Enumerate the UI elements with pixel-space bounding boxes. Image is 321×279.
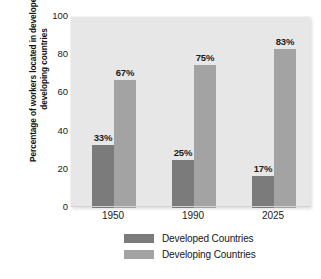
legend-item-developed: Developed Countries	[124, 231, 256, 245]
bar-developed-2025	[252, 176, 274, 208]
y-tick-label: 0	[40, 201, 68, 212]
y-tick-label: 20	[40, 163, 68, 174]
y-tick-label: 60	[40, 86, 68, 97]
bar-value-label: 67%	[110, 67, 140, 78]
bar-chart-figure: Percentage of workers located in develop…	[0, 0, 321, 279]
bar-developing-1950	[114, 80, 136, 208]
bar-value-label: 75%	[190, 52, 220, 63]
bar-developing-1990	[194, 65, 216, 208]
chart-legend: Developed Countries Developing Countries	[124, 231, 256, 261]
y-axis-tick-labels: 020406080100	[38, 0, 68, 279]
y-tick-label: 40	[40, 125, 68, 136]
x-tick-label: 2025	[243, 210, 303, 221]
y-tick-label: 80	[40, 48, 68, 59]
bar-developed-1950	[92, 145, 114, 208]
legend-label-developing: Developing Countries	[162, 249, 256, 260]
legend-swatch-developing	[124, 250, 154, 259]
bar-value-label: 83%	[270, 36, 300, 47]
x-tick-label: 1950	[83, 210, 143, 221]
bar-developing-2025	[274, 49, 296, 208]
bar-developed-1990	[172, 160, 194, 208]
legend-label-developed: Developed Countries	[162, 233, 254, 244]
plot-area: 33%67%25%75%17%83%	[70, 16, 310, 207]
bars-container: 33%67%25%75%17%83%	[71, 17, 311, 208]
legend-item-developing: Developing Countries	[124, 247, 256, 261]
y-tick-label: 100	[40, 10, 68, 21]
legend-swatch-developed	[124, 234, 154, 243]
x-tick-label: 1990	[163, 210, 223, 221]
x-axis-tick-labels: 195019902025	[70, 210, 310, 226]
